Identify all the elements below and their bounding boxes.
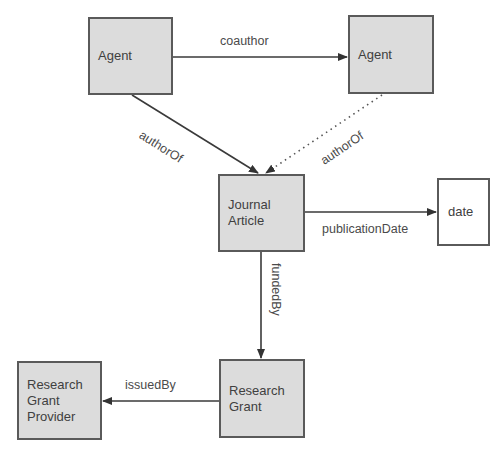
edge-label-coauthor: coauthor (220, 34, 269, 48)
node-agent-1: Agent (88, 17, 173, 95)
node-agent-1-label: Agent (98, 48, 132, 64)
node-date: date (437, 178, 490, 246)
node-research-grant: Research Grant (219, 359, 305, 438)
edge-label-issuedby: issuedBy (125, 378, 176, 392)
node-agent-2-label: Agent (358, 47, 392, 63)
node-research-grant-label: Research Grant (229, 383, 285, 415)
node-research-grant-provider: Research Grant Provider (17, 361, 102, 440)
node-journal-article: Journal Article (218, 174, 305, 252)
node-journal-article-label: Journal Article (228, 197, 271, 229)
node-date-label: date (448, 204, 473, 220)
diagram-canvas: Agent Agent Journal Article date Researc… (0, 0, 502, 454)
edge-label-publicationdate: publicationDate (322, 222, 408, 236)
node-agent-2: Agent (348, 15, 434, 94)
edge-label-fundedby: fundedBy (269, 263, 283, 316)
node-research-grant-provider-label: Research Grant Provider (27, 377, 83, 425)
